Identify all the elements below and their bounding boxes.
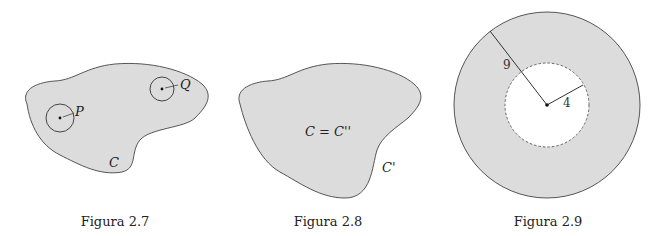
figure-2-9: 9 4 <box>454 12 640 198</box>
label-inner-radius: 4 <box>563 96 571 110</box>
figures-canvas: P Q C C = C'' C' 9 4 <box>0 0 660 236</box>
label-c-prime: C' <box>382 160 396 175</box>
caption-figure-2-8: Figura 2.8 <box>294 214 363 229</box>
label-q: Q <box>180 77 191 92</box>
point-p <box>59 117 62 120</box>
figure-2-8: C = C'' C' <box>239 63 421 198</box>
point-q <box>161 88 164 91</box>
caption-figure-2-9: Figura 2.9 <box>514 214 583 229</box>
label-outer-radius: 9 <box>503 58 511 72</box>
center-point <box>545 103 549 107</box>
figure-2-7: P Q C <box>26 63 209 172</box>
label-p: P <box>74 104 84 119</box>
label-c: C <box>109 155 119 170</box>
label-c-equals-c-double-prime: C = C'' <box>305 124 351 139</box>
caption-figure-2-7: Figura 2.7 <box>81 214 150 229</box>
